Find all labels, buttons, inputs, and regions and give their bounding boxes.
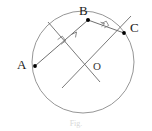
perpendicular-bisector-bc xyxy=(62,16,131,88)
point-label-c: C xyxy=(130,21,139,34)
geometry-figure: A B C O Fig. xyxy=(0,0,152,131)
point-label-b: B xyxy=(79,4,88,17)
perpendicular-bisector-ab xyxy=(48,22,100,82)
point-label-o: O xyxy=(93,61,101,72)
tick-mark-ab-icon xyxy=(72,32,77,37)
point-marker-c xyxy=(122,31,126,35)
point-label-a: A xyxy=(17,58,26,71)
figure-caption: Fig. xyxy=(0,120,152,128)
point-marker-b xyxy=(86,18,90,22)
point-marker-a xyxy=(33,64,37,68)
